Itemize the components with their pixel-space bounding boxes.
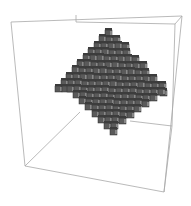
box-edge-back bbox=[130, 121, 172, 126]
voxel-cube bbox=[90, 53, 97, 61]
voxel-cube bbox=[105, 28, 112, 36]
voxel-cube bbox=[85, 102, 92, 110]
voxel-cube bbox=[79, 96, 86, 104]
voxel-cube bbox=[87, 72, 94, 80]
box-edge-front bbox=[11, 16, 182, 22]
voxel-cube bbox=[92, 109, 99, 117]
voxel-cube bbox=[110, 127, 117, 135]
voxel-cube bbox=[93, 66, 100, 74]
voxel-cube bbox=[72, 65, 79, 73]
voxel-cube bbox=[158, 87, 165, 95]
voxel-cube bbox=[134, 104, 141, 112]
box-edge-back bbox=[25, 112, 80, 166]
voxel-cube bbox=[104, 121, 111, 129]
voxel-cube bbox=[118, 54, 125, 62]
voxel-cube bbox=[119, 116, 126, 124]
voxel-cube bbox=[73, 90, 80, 98]
octahedron-3d-plot bbox=[0, 0, 191, 206]
voxel-cube bbox=[84, 59, 91, 67]
voxel-cube bbox=[121, 67, 128, 75]
voxel-cube bbox=[99, 34, 106, 42]
voxel-octahedron bbox=[55, 28, 167, 135]
voxel-cube bbox=[128, 67, 135, 75]
voxel-cube bbox=[98, 115, 105, 123]
voxel-cube bbox=[150, 74, 157, 82]
voxel-cube bbox=[67, 84, 74, 92]
voxel-cube bbox=[112, 60, 119, 68]
box-edge-front bbox=[164, 16, 182, 192]
voxel-cube bbox=[55, 84, 62, 92]
voxel-cube bbox=[150, 93, 157, 101]
box-edge-back bbox=[76, 22, 175, 24]
voxel-cube bbox=[115, 41, 122, 49]
voxel-cube bbox=[142, 99, 149, 107]
voxel-cube bbox=[127, 110, 134, 118]
voxel-cube bbox=[100, 66, 107, 74]
box-edge-front bbox=[25, 166, 164, 192]
plot-canvas bbox=[0, 0, 191, 206]
voxel-cube bbox=[125, 54, 132, 62]
voxel-cube bbox=[97, 53, 104, 61]
voxel-cube bbox=[108, 41, 115, 49]
voxel-cube bbox=[110, 79, 117, 87]
voxel-cube bbox=[140, 61, 147, 69]
voxel-cube bbox=[138, 80, 145, 88]
box-edge-front bbox=[11, 22, 25, 166]
